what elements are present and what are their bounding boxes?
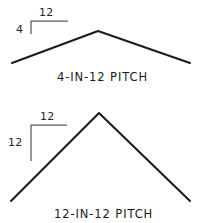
run-dimension-label-bottom: 12	[40, 110, 54, 123]
figure-four-in-twelve: 12 4 4-IN-12 PITCH	[12, 6, 190, 84]
roof-pitch-diagram-page: 12 4 4-IN-12 PITCH 12 12 12-IN-12 PITCH	[0, 0, 201, 223]
caption-twelve-in-twelve: 12-IN-12 PITCH	[54, 207, 153, 221]
caption-four-in-twelve: 4-IN-12 PITCH	[57, 70, 148, 84]
pitch-bracket-top	[31, 21, 68, 34]
roof-profile-line-top	[12, 31, 190, 63]
figure-twelve-in-twelve: 12 12 12-IN-12 PITCH	[8, 110, 190, 221]
roof-profile-line-bottom	[11, 113, 190, 201]
diagram-canvas: 12 4 4-IN-12 PITCH 12 12 12-IN-12 PITCH	[0, 0, 201, 223]
run-dimension-label-top: 12	[39, 6, 53, 19]
pitch-bracket-bottom	[31, 125, 67, 161]
rise-dimension-label-bottom: 12	[8, 136, 22, 149]
rise-dimension-label-top: 4	[16, 23, 23, 36]
